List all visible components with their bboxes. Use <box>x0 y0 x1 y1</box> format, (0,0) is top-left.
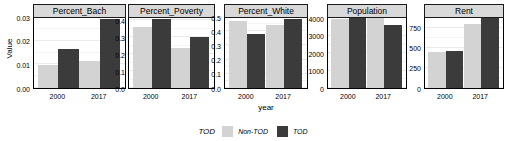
facet-rent: Rent <box>424 4 504 89</box>
bar-non-tod-2000 <box>331 19 348 88</box>
x-axis-tick-label: 2000 <box>231 93 261 100</box>
y-axis-tick-label: 2000 <box>293 51 324 58</box>
plot-panel <box>424 18 504 89</box>
y-axis-tick-label: 0.00 <box>0 86 30 93</box>
bar-non-tod-2017 <box>464 24 481 88</box>
y-axis-tick-label: 0.3 <box>94 35 125 42</box>
bar-tod-2017 <box>481 18 498 88</box>
bar-tod-2000 <box>349 18 366 88</box>
facet-row: Percent_Bach0.000.010.020.0320002017Perc… <box>0 0 510 141</box>
bar-tod-2000 <box>152 19 171 88</box>
legend-swatch-non-tod <box>222 126 233 137</box>
y-axis-tick-label: 0.3 <box>190 43 221 50</box>
facet-percent_bach: Percent_Bach <box>33 4 126 89</box>
x-axis-title: year <box>236 103 296 112</box>
y-axis-tick-label: 0.02 <box>0 38 30 45</box>
legend-swatch-tod <box>277 126 288 137</box>
x-axis-tick-label: 2000 <box>42 93 72 100</box>
y-axis-tick-label: 0.2 <box>190 57 221 64</box>
facet-strip-label: Percent_Bach <box>33 4 126 18</box>
facet-strip-label: Rent <box>424 4 504 18</box>
y-axis-tick-label: 0.03 <box>0 15 30 22</box>
y-axis-tick-label: 750 <box>390 25 421 32</box>
y-axis-tick-label: 500 <box>390 45 421 52</box>
x-axis-tick-label: 2000 <box>136 93 166 100</box>
x-axis-tick-label: 2017 <box>465 93 495 100</box>
legend-label-tod: TOD <box>293 128 308 135</box>
x-axis-tick-label: 2000 <box>430 93 460 100</box>
facet-strip-label: Population <box>327 4 407 18</box>
y-axis-tick-label: 0.0 <box>94 86 125 93</box>
x-axis-tick-label: 2017 <box>174 93 204 100</box>
bar-non-tod-2017 <box>367 18 384 88</box>
bar-tod-2017 <box>384 25 401 88</box>
y-axis-tick-label: 0 <box>293 86 324 93</box>
y-axis-tick-label: 0.4 <box>190 29 221 36</box>
x-axis-tick-label: 2000 <box>333 93 363 100</box>
x-axis-tick-label: 2017 <box>268 93 298 100</box>
y-axis-tick-label: 0.2 <box>94 52 125 59</box>
bar-non-tod-2017 <box>266 25 284 88</box>
bar-tod-2000 <box>247 34 265 88</box>
bar-tod-2000 <box>58 49 78 88</box>
legend-title: TOD <box>198 127 215 136</box>
y-axis-tick-label: 4000 <box>293 16 324 23</box>
bar-non-tod-2000 <box>428 52 445 88</box>
chart-figure: Value Percent_Bach0.000.010.020.03200020… <box>0 0 510 141</box>
x-axis-tick-label: 2017 <box>368 93 398 100</box>
bar-non-tod-2000 <box>229 21 247 88</box>
y-axis-tick-label: 0.1 <box>94 69 125 76</box>
y-axis-tick-label: 3000 <box>293 33 324 40</box>
y-axis-tick-label: 0 <box>390 86 421 93</box>
chart-legend: TOD Non-TOD TOD <box>0 126 510 137</box>
x-axis-tick-label: 2017 <box>84 93 114 100</box>
y-axis-tick-label: 0.5 <box>190 15 221 22</box>
bar-non-tod-2000 <box>133 27 152 88</box>
bar-tod-2000 <box>446 51 463 88</box>
y-axis-tick-label: 0.4 <box>94 18 125 25</box>
y-axis-tick-label: 250 <box>390 65 421 72</box>
legend-label-non-tod: Non-TOD <box>238 128 268 135</box>
y-axis-tick-label: 0.0 <box>190 86 221 93</box>
bar-non-tod-2000 <box>38 65 58 88</box>
bar-non-tod-2017 <box>171 48 190 88</box>
y-axis-tick-label: 0.01 <box>0 62 30 69</box>
y-axis-tick-label: 0.1 <box>190 71 221 78</box>
y-axis-tick-label: 1000 <box>293 68 324 75</box>
